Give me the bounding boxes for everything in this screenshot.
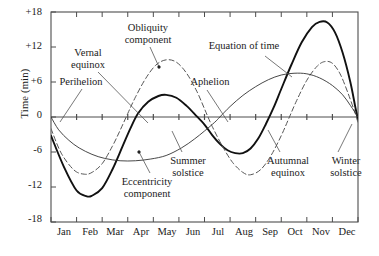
curve-marker-dot-1 — [138, 151, 141, 154]
curve-marker-dot-0 — [158, 66, 161, 69]
equation-of-time-figure: Time (min) +18 +12 +6 0 -6 -12 -18 Jan F… — [0, 0, 379, 256]
data-curves — [51, 21, 358, 197]
leader-line-0 — [150, 47, 159, 67]
leader-line-1 — [265, 56, 292, 77]
annotation-leader-lines — [60, 47, 352, 173]
plot-canvas — [0, 0, 379, 256]
curve-equation-of-time — [51, 21, 358, 197]
leader-line-6 — [172, 131, 182, 152]
leader-line-8 — [338, 124, 352, 152]
leader-line-2 — [98, 72, 148, 123]
leader-line-5 — [139, 152, 150, 173]
leader-line-7 — [268, 130, 280, 152]
